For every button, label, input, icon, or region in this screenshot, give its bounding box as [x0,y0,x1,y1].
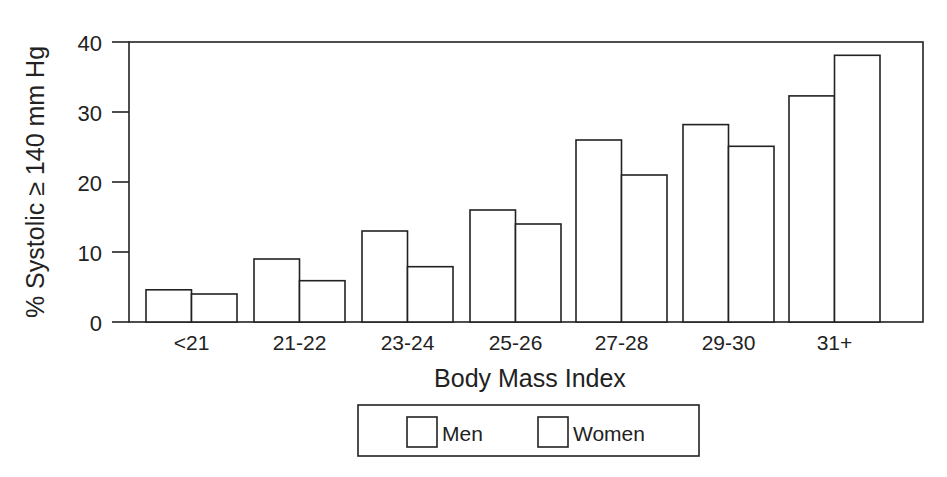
bar-women-0 [192,294,238,322]
legend-label-men: Men [442,422,483,445]
y-tick-label: 40 [78,31,102,56]
bar-women-4 [622,175,668,322]
legend-swatch-women [538,417,568,447]
y-tick-label: 20 [78,171,102,196]
bar-women-5 [729,146,775,322]
x-axis-title: Body Mass Index [434,364,626,392]
bar-men-6 [789,96,835,322]
x-tick-label: 29-30 [702,331,756,354]
y-axis: 010203040 [78,31,129,336]
bar-men-0 [146,290,192,322]
bar-women-2 [408,267,454,322]
bar-men-2 [362,231,408,322]
x-axis-tick-labels: <2121-2223-2425-2627-2829-3031+ [174,331,853,354]
legend-swatch-men [407,417,437,447]
bar-men-4 [576,140,622,322]
bar-women-6 [835,55,881,322]
y-tick-label: 0 [90,311,102,336]
legend: Men Women [358,405,699,456]
x-tick-label: 25-26 [489,331,543,354]
bar-men-5 [683,125,729,322]
y-tick-label: 10 [78,241,102,266]
x-tick-label: 21-22 [273,331,327,354]
bar-women-3 [516,224,562,322]
legend-label-women: Women [573,422,645,445]
bar-men-1 [254,259,300,322]
x-tick-label: <21 [174,331,210,354]
bar-chart: 010203040 <2121-2223-2425-2627-2829-3031… [0,0,947,477]
y-axis-title: % Systolic ≥ 140 mm Hg [21,46,49,318]
bar-men-3 [470,210,516,322]
x-tick-label: 27-28 [595,331,649,354]
y-tick-label: 30 [78,101,102,126]
x-tick-label: 23-24 [381,331,435,354]
bar-women-1 [300,281,346,322]
x-tick-label: 31+ [817,331,853,354]
bars [146,55,880,322]
